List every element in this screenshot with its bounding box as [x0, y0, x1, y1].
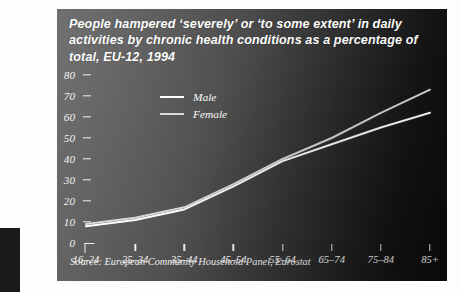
chart-panel: People hampered ‘severely’ or ‘to some e…	[57, 9, 447, 281]
plot-area: 01020304050607080 16–2425–3435–4445–5455…	[57, 9, 447, 281]
series-line-female	[86, 90, 430, 224]
legend-label: Male	[193, 91, 216, 103]
legend-item-male: Male	[160, 88, 227, 105]
series-line-male	[86, 113, 430, 226]
legend-swatch-female	[160, 113, 184, 115]
legend-label: Female	[193, 108, 227, 120]
source-note: Source: European Community Household Pan…	[70, 256, 311, 267]
legend-swatch-male	[160, 96, 184, 98]
legend-item-female: Female	[160, 105, 227, 122]
legend: MaleFemale	[160, 88, 227, 122]
series-lines	[57, 9, 447, 281]
page-edge-block	[0, 228, 20, 292]
figure-root: People hampered ‘severely’ or ‘to some e…	[0, 0, 459, 292]
